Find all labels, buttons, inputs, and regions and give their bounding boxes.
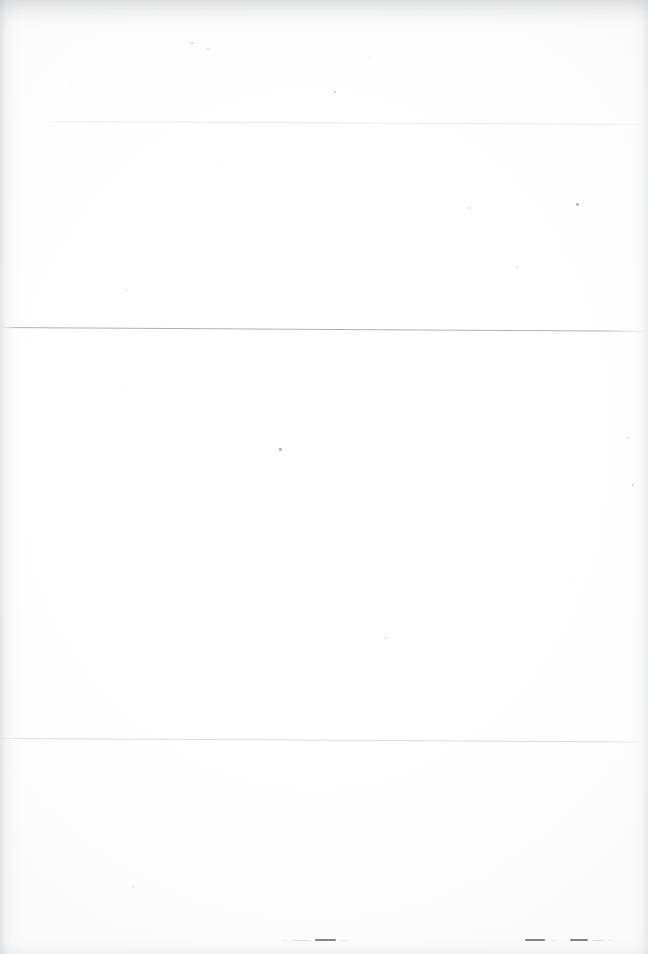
footer-dash-segment: [283, 940, 287, 941]
scan-edge-shadow-right: [630, 0, 648, 954]
scan-edge-shadow-bottom: [0, 932, 648, 954]
footer-dash-segment: [340, 940, 348, 941]
footer-dash-cluster-left: [283, 939, 348, 941]
footer-dash-segment: [593, 940, 603, 941]
footer-dash-segment: [608, 940, 613, 941]
scan-edge-shadow-left: [0, 0, 26, 954]
footer-dash-segment: [550, 940, 556, 941]
footer-dash-segment: [315, 939, 336, 941]
scanned-page: [0, 0, 648, 954]
scan-edge-shadow-top: [0, 0, 648, 34]
footer-dash-cluster-right-b: [570, 939, 613, 941]
footer-dash-segment: [293, 940, 310, 941]
footer-dash-segment: [525, 939, 545, 941]
footer-dash-cluster-right-a: [525, 939, 556, 941]
paper-grain: [0, 0, 648, 954]
footer-dash-segment: [570, 939, 588, 941]
